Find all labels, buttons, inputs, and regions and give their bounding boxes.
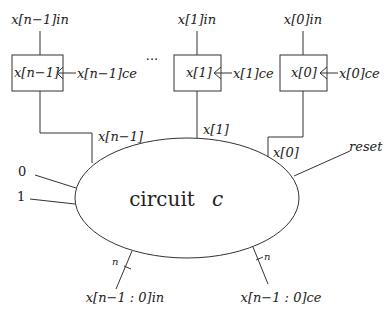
- const-1: 1: [17, 189, 25, 204]
- register-name-x-n-1: x[n−1]: [14, 65, 60, 80]
- label-x-n-1-ce: x[n−1]ce: [77, 66, 137, 81]
- circuit-diagram: x[n−1]in x[n−1] x[n−1]ce x[n−1] ··· x[1]…: [0, 0, 389, 316]
- label-reset: reset: [349, 139, 383, 154]
- label-x-n-1-out: x[n−1]: [98, 129, 144, 144]
- register-x-n-1: x[n−1]in x[n−1] x[n−1]ce x[n−1]: [11, 12, 144, 163]
- register-name-x-0: x[0]: [291, 65, 318, 80]
- register-x-0: x[0]in x[0] x[0]ce x[0]: [268, 12, 380, 160]
- label-x-1-ce: x[1]ce: [233, 66, 274, 81]
- bus-ce-width: n: [264, 251, 270, 262]
- label-x-0-in: x[0]in: [284, 12, 322, 27]
- label-bus-in: x[n−1 : 0]in: [86, 290, 164, 305]
- circuit-label: circuit: [129, 187, 195, 211]
- wire-reset: [294, 151, 350, 176]
- bus-in-width: n: [112, 256, 118, 267]
- label-x-0-ce: x[0]ce: [339, 66, 380, 81]
- register-name-x-1: x[1]: [186, 65, 213, 80]
- ellipsis: ···: [146, 52, 158, 67]
- wire-x-n-1-out: [40, 91, 92, 163]
- register-x-1: x[1]in x[1] x[1]ce x[1]: [174, 12, 274, 138]
- label-x-1-out: x[1]: [203, 122, 230, 137]
- label-x-1-in: x[1]in: [178, 12, 216, 27]
- label-x-n-1-in: x[n−1]in: [11, 12, 69, 27]
- circuit-var: c: [212, 187, 223, 211]
- const-0: 0: [18, 164, 26, 179]
- wire-const-0: [35, 175, 76, 188]
- label-bus-ce: x[n−1 : 0]ce: [241, 290, 322, 305]
- wire-const-1: [30, 199, 75, 204]
- label-x-0-out: x[0]: [273, 145, 300, 160]
